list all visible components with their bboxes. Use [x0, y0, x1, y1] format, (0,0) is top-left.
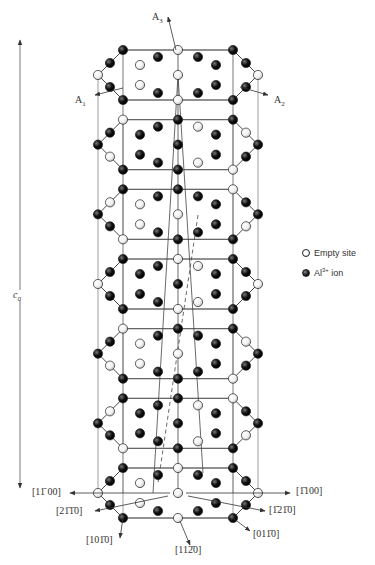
legend-empty-label: Empty site	[314, 248, 356, 258]
atoms-layer	[93, 45, 262, 522]
dir-label-01-1bar-0: [011̄0]	[253, 528, 279, 539]
dir-label-10-1bar-0: [101̄0]	[86, 534, 113, 545]
c-axis-label: c0	[13, 289, 21, 303]
dir-label-11-2bar-0: [112̄0]	[175, 544, 201, 555]
dir-label-1bar-100: [1̄100]	[296, 485, 322, 496]
dir-label-2-1bar-1bar-0: [21̄1̄0]	[56, 505, 82, 516]
dir-label-1-1bar-00: [11̄ 00]	[32, 486, 61, 497]
axis-label-a3: A3	[152, 11, 163, 25]
empty-site-icon	[302, 249, 310, 257]
legend-al-ion: Al3+ ion	[302, 267, 343, 278]
legend-ion-label: Al3+ ion	[314, 267, 343, 278]
axis-label-a2: A2	[274, 94, 285, 108]
dir-label-1bar-2-1bar-0: [1̄21̄0]	[269, 504, 296, 515]
corundum-structure-diagram: A3 A1 A2 c0 [11̄ 00] [1̄100] [21̄1̄0] [1…	[0, 0, 375, 565]
legend-empty-site: Empty site	[302, 248, 356, 258]
axis-label-a1: A1	[75, 94, 86, 108]
al-ion-icon	[302, 269, 310, 277]
